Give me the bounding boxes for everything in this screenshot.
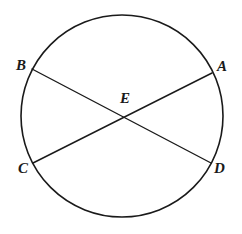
point-label-a: A [217, 59, 227, 74]
point-label-b: B [16, 58, 26, 73]
point-label-d: D [214, 161, 225, 176]
chord-b-to-d [32, 69, 211, 163]
geometry-figure: B A E C D [0, 0, 242, 234]
point-label-c: C [18, 161, 28, 176]
geometry-canvas [0, 0, 242, 234]
point-label-e: E [120, 91, 130, 106]
